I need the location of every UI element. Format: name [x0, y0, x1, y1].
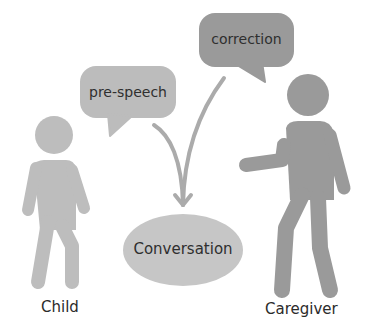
child-figure-icon: [28, 116, 84, 282]
caregiver-label: Caregiver: [265, 300, 338, 318]
arrow-from-correction: [183, 78, 224, 205]
conversation-label: Conversation: [123, 240, 243, 258]
correction-bubble: [199, 13, 294, 82]
arrow-from-pre-speech: [154, 125, 183, 205]
pre-speech-bubble: [80, 66, 176, 136]
pre-speech-label: pre-speech: [80, 84, 176, 100]
correction-label: correction: [199, 31, 294, 47]
child-label: Child: [41, 298, 79, 316]
caregiver-figure-icon: [246, 74, 344, 290]
diagram-canvas: pre-speech correction Conversation Child…: [0, 0, 372, 332]
